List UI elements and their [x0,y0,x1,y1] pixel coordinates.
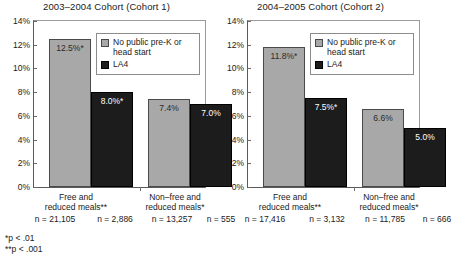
y-tick-mark [34,92,37,93]
n-label-gray-group1: n = 21,105 [23,214,87,224]
bar-value-label: 8.0%* [92,96,132,106]
plot-area-cohort-2: 14% 12% 10% 8% 6% 4% 2% 0% 11.8%* 7. [247,20,420,188]
y-tick-mark [248,92,251,93]
category-label-line1: Free and [59,192,93,202]
bar-value-label: 5.0% [405,132,445,142]
legend-swatch-black-icon [101,61,109,69]
category-label-line1: Free and [273,192,307,202]
panel-cohort-2: 2004–2005 Cohort (Cohort 2) 14% 12% 10% … [214,0,427,232]
y-tick-mark [34,68,37,69]
legend-label-line2: head start [327,47,365,57]
y-tick-mark [248,21,251,22]
y-tick-mark [248,116,251,117]
bar-value-label: 12.5%* [50,43,90,53]
bar-value-label: 7.4% [149,103,189,113]
bar-gray-group2[interactable]: 6.6% [362,109,404,187]
plot-area-cohort-1: 14% 12% 10% 8% 6% 4% 2% 0% 12.5%* [33,20,206,188]
x-tick-mark [354,187,355,191]
bar-gray-group1[interactable]: 11.8%* [263,47,305,187]
y-tick-mark [34,140,37,141]
y-tick-mark [34,187,37,188]
y-tick-mark [34,163,37,164]
y-tick-mark [34,21,37,22]
y-tick-mark [34,116,37,117]
legend-swatch-gray-icon [101,39,109,47]
n-label-black-group2: n = 666 [414,214,456,224]
legend-label-la4: LA4 [327,60,342,70]
category-label-line2: reduced meals** [45,202,107,212]
x-tick-mark [140,187,141,191]
footnote-p01: *p < .01 [5,233,43,244]
y-tick-mark [248,163,251,164]
y-tick-label: 2% [232,159,244,168]
y-tick-label: 8% [232,88,244,97]
y-tick-mark [248,68,251,69]
legend-item-la4: LA4 [101,60,194,70]
category-label-line1: Non–free and [149,192,201,202]
bar-value-label: 11.8%* [264,51,304,61]
legend-swatch-gray-icon [315,39,323,47]
y-tick-label: 10% [227,64,244,73]
bar-value-label: 7.5%* [306,102,346,112]
category-label-line1: Non–free and [363,192,415,202]
y-tick-label: 0% [18,183,30,192]
panel-cohort-1: 2003–2004 Cohort (Cohort 1) 14% 12% 10% … [0,0,213,232]
n-label-black-group1: n = 3,132 [298,214,356,224]
category-label-group1: Free and reduced meals** [36,192,116,212]
y-tick-label: 14% [227,17,244,26]
category-label-group2: Non–free and reduced meals* [347,192,431,212]
n-label-gray-group2: n = 13,257 [141,214,203,224]
category-label-group2: Non–free and reduced meals* [133,192,217,212]
bar-black-group2[interactable]: 5.0% [404,128,446,187]
legend-cohort-1: No public pre-K or head start LA4 [96,33,200,75]
y-tick-label: 4% [18,135,30,144]
panel-title-cohort-1: 2003–2004 Cohort (Cohort 1) [0,1,213,12]
bar-black-group1[interactable]: 7.5%* [305,98,347,187]
legend-label-line1: No public pre-K or [113,37,182,47]
category-label-line2: reduced meals* [145,202,204,212]
y-tick-label: 6% [18,112,30,121]
legend-label-line1: No public pre-K or [327,37,396,47]
n-label-black-group1: n = 2,886 [86,214,144,224]
y-tick-label: 10% [13,64,30,73]
n-label-gray-group2: n = 11,785 [353,214,417,224]
panel-title-cohort-2: 2004–2005 Cohort (Cohort 2) [214,1,427,12]
y-tick-label: 8% [18,88,30,97]
y-tick-mark [34,45,37,46]
category-label-group1: Free and reduced meals** [250,192,330,212]
legend-item-no-prek: No public pre-K or head start [101,38,194,57]
legend-cohort-2: No public pre-K or head start LA4 [310,33,414,75]
footnote-p001: **p < .001 [5,244,43,255]
legend-swatch-black-icon [315,61,323,69]
y-tick-label: 14% [13,17,30,26]
y-tick-label: 6% [232,112,244,121]
bar-black-group1[interactable]: 8.0%* [91,92,133,187]
legend-label-la4: LA4 [113,60,128,70]
y-tick-label: 0% [232,183,244,192]
n-label-gray-group1: n = 17,416 [232,214,298,224]
bar-gray-group1[interactable]: 12.5%* [49,39,91,187]
category-label-line2: reduced meals** [259,202,321,212]
legend-label-line2: head start [113,47,151,57]
y-tick-label: 2% [18,159,30,168]
y-tick-label: 12% [13,40,30,49]
y-tick-mark [248,45,251,46]
y-tick-mark [248,187,251,188]
y-tick-label: 12% [227,40,244,49]
y-tick-label: 4% [232,135,244,144]
legend-item-la4: LA4 [315,60,408,70]
bar-value-label: 6.6% [363,113,403,123]
footnotes: *p < .01 **p < .001 [5,233,43,254]
y-tick-mark [248,140,251,141]
bar-gray-group2[interactable]: 7.4% [148,99,190,187]
legend-item-no-prek: No public pre-K or head start [315,38,408,57]
category-label-line2: reduced meals* [359,202,418,212]
